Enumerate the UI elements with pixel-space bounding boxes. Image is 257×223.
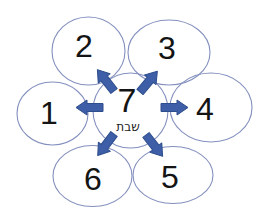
diagram-canvas: 1 2 3 4 5 6 7 שבת <box>0 0 257 223</box>
arrow-center-to-4 <box>161 100 188 115</box>
circle-2-number: 2 <box>75 28 93 64</box>
circle-6-number: 6 <box>84 161 102 197</box>
circle-3-number: 3 <box>158 30 176 66</box>
circle-4-number: 4 <box>196 91 214 127</box>
circle-5-number: 5 <box>161 159 179 195</box>
circle-1-number: 1 <box>40 95 58 131</box>
center-caption: שבת <box>116 120 139 134</box>
arrow-center-to-1 <box>76 100 103 115</box>
arrow-center-to-2 <box>91 65 119 96</box>
shabbat-cycle-diagram: 1 2 3 4 5 6 7 שבת <box>0 0 257 223</box>
center-number: 7 <box>118 81 137 119</box>
arrow-center-to-3 <box>134 66 163 96</box>
labels: 1 2 3 4 5 6 7 שבת <box>40 28 214 197</box>
